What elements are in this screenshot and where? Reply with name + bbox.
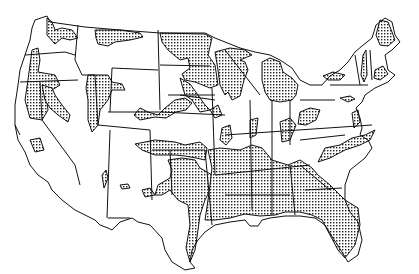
us-map-svg xyxy=(0,0,419,274)
us-map xyxy=(0,0,419,274)
shaded-regions xyxy=(25,18,395,262)
